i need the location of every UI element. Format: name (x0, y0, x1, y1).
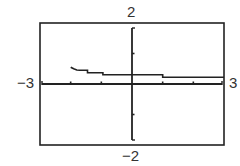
function-curve (71, 67, 224, 77)
axes (42, 28, 222, 140)
graph-plot (0, 0, 240, 166)
curve-series (71, 67, 224, 77)
